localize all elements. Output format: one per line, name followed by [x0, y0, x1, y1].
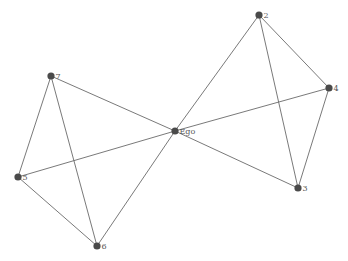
node-dot — [294, 184, 301, 191]
edge-ego-6 — [97, 131, 175, 246]
node-dot — [325, 84, 332, 91]
edge-ego-2 — [175, 15, 259, 131]
node-label: 3 — [303, 184, 308, 193]
node-dot — [171, 127, 178, 134]
node-label: 5 — [23, 173, 28, 182]
node-4: 4 — [325, 84, 338, 93]
edge-ego-4 — [175, 88, 329, 131]
node-label: 7 — [56, 72, 61, 81]
node-label: Ego — [180, 127, 196, 136]
node-6: 6 — [93, 242, 106, 251]
clipped-caption — [0, 256, 120, 261]
node-ego: Ego — [171, 127, 195, 136]
edge-5-6 — [18, 177, 97, 246]
edge-ego-5 — [18, 131, 175, 177]
node-dot — [47, 72, 54, 79]
node-5: 5 — [14, 173, 27, 182]
ego-network-diagram: Ego243756 — [0, 0, 348, 261]
node-dot — [255, 11, 262, 18]
node-dot — [93, 242, 100, 249]
node-label: 4 — [334, 84, 339, 93]
edge-7-6 — [51, 76, 97, 246]
edge-ego-7 — [51, 76, 175, 131]
node-3: 3 — [294, 184, 307, 193]
node-label: 2 — [264, 11, 269, 20]
node-label: 6 — [102, 242, 107, 251]
edge-ego-3 — [175, 131, 298, 188]
edge-2-3 — [259, 15, 298, 188]
edge-2-4 — [259, 15, 329, 88]
node-dot — [14, 173, 21, 180]
edge-7-5 — [18, 76, 51, 177]
edge-4-3 — [298, 88, 329, 188]
